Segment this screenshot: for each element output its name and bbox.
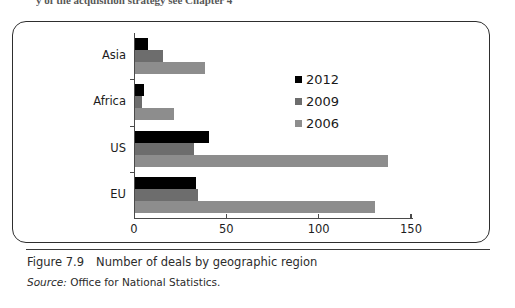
y-axis-tick (130, 126, 134, 127)
y-axis-tick (130, 172, 134, 173)
legend-swatch-icon (295, 98, 302, 105)
cut-off-running-text: y of the acquisition strategy see Chapte… (36, 0, 336, 6)
bar-us-2009 (135, 143, 194, 155)
legend-swatch-icon (295, 76, 302, 83)
legend-label: 2009 (306, 95, 339, 108)
x-axis-tick (318, 214, 319, 218)
bar-africa-2006 (135, 108, 174, 120)
legend-item-2012: 2012 (295, 70, 339, 89)
figure-caption: Figure 7.9Number of deals by geographic … (27, 255, 317, 269)
legend-item-2006: 2006 (295, 114, 339, 133)
bar-us-2006 (135, 155, 388, 167)
bar-us-2012 (135, 131, 209, 143)
y-axis-tick (130, 79, 134, 80)
bar-asia-2012 (135, 38, 148, 50)
category-label-asia: Asia (102, 50, 126, 62)
legend-swatch-icon (295, 120, 302, 127)
chart-legend: 201220092006 (295, 70, 339, 136)
bar-eu-2006 (135, 201, 375, 213)
x-axis-tick-label: 50 (206, 224, 246, 236)
x-axis-tick-label: 150 (391, 224, 431, 236)
source-text: Office for National Statistics. (70, 276, 220, 288)
legend-label: 2006 (306, 117, 339, 130)
x-axis-tick-label: 0 (114, 224, 154, 236)
x-axis-line (134, 218, 413, 219)
x-axis-tick (226, 214, 227, 218)
bar-asia-2006 (135, 62, 205, 74)
figure-caption-text: Number of deals by geographic region (96, 255, 317, 269)
bar-eu-2012 (135, 177, 196, 189)
bar-eu-2009 (135, 189, 198, 201)
bar-africa-2012 (135, 84, 144, 96)
x-axis-tick (410, 214, 411, 218)
figure-source: Source: Office for National Statistics. (27, 276, 220, 288)
legend-label: 2012 (306, 73, 339, 86)
bar-chart-plot: AsiaAfricaUSEU050100150 (13, 22, 491, 244)
x-axis-tick-label: 100 (299, 224, 339, 236)
source-label: Source: (27, 276, 67, 288)
category-label-africa: Africa (93, 96, 126, 108)
category-label-us: US (110, 143, 126, 155)
bar-africa-2009 (135, 96, 142, 108)
caption-divider (26, 249, 490, 250)
category-label-eu: EU (110, 189, 126, 201)
legend-item-2009: 2009 (295, 92, 339, 111)
bar-asia-2009 (135, 50, 163, 62)
figure-number: Figure 7.9 (27, 255, 84, 269)
figure-box: AsiaAfricaUSEU050100150 201220092006 (12, 21, 490, 243)
